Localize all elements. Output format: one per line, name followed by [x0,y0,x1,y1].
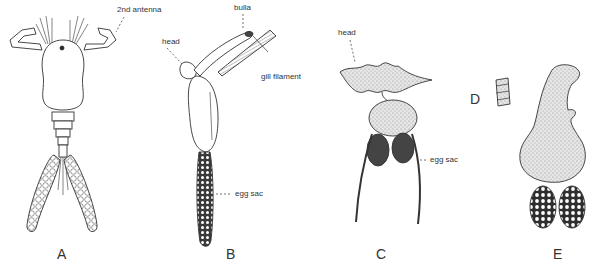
panel-e-drawing [520,65,586,228]
panel-letter-c: C [376,246,386,262]
label-c-egg-sac: egg sac [430,155,458,164]
illustration-canvas [0,0,594,266]
panel-c-drawing [340,63,432,224]
panel-letter-d: D [470,91,480,107]
panel-d-drawing [496,78,510,106]
label-b-egg-sac: egg sac [235,189,263,198]
panel-b-drawing [180,30,276,246]
panel-letter-b: B [226,246,235,262]
copepod-figure: 2nd antenna head bulla gill filament egg… [0,0,594,266]
label-b-bulla: bulla [234,3,251,12]
panel-letter-a: A [57,246,66,262]
label-b-head: head [162,37,180,46]
panel-letter-e: E [553,246,562,262]
panel-a-drawing [10,16,116,232]
label-2nd-antenna: 2nd antenna [117,5,162,14]
label-b-gill-filament: gill filament [261,72,301,81]
label-c-head: head [338,28,356,37]
